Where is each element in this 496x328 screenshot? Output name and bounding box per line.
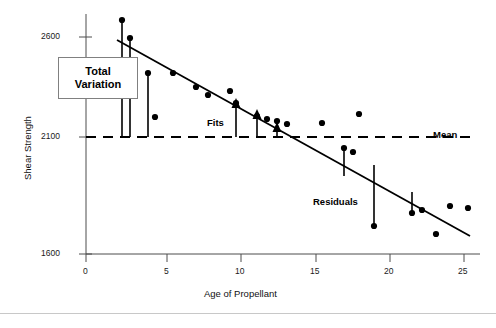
data-point	[145, 70, 151, 76]
data-point	[465, 205, 471, 211]
residual-segments	[344, 148, 412, 226]
data-point	[264, 116, 270, 122]
data-point	[205, 92, 211, 98]
scatter-plot-canvas	[0, 0, 496, 328]
data-point	[227, 88, 233, 94]
data-point	[419, 207, 425, 213]
residuals-label: Residuals	[313, 196, 358, 207]
bottom-divider	[0, 313, 496, 314]
xtick-label-15: 15	[310, 266, 319, 276]
data-point	[356, 111, 362, 117]
xtick-label-20: 20	[384, 266, 393, 276]
data-point	[274, 118, 280, 124]
data-point	[193, 84, 199, 90]
y-axis-title: Shear Strength	[22, 116, 33, 180]
total-variation-label-line2: Variation	[75, 78, 121, 91]
data-point	[433, 231, 439, 237]
x-axis-title: Age of Propellant	[204, 288, 277, 299]
ytick-label-2100: 2100	[41, 131, 60, 141]
data-point	[127, 35, 133, 41]
fit-arrow	[273, 122, 282, 137]
xtick-label-10: 10	[235, 266, 244, 276]
fits-label: Fits	[207, 117, 224, 128]
data-point	[447, 203, 453, 209]
total-variation-label-line1: Total	[85, 65, 110, 78]
data-point	[341, 145, 347, 151]
data-point	[409, 210, 415, 216]
data-point	[152, 114, 158, 120]
data-point	[233, 100, 239, 106]
total-variation-annotation: Total Variation	[58, 57, 138, 99]
ytick-label-1600: 1600	[41, 248, 60, 258]
xtick-label-25: 25	[458, 266, 467, 276]
data-point	[170, 70, 176, 76]
mean-label: Mean	[433, 129, 457, 140]
xtick-label-5: 5	[164, 266, 169, 276]
data-point	[119, 17, 125, 23]
data-point	[350, 149, 356, 155]
chart-figure: 2600 2100 1600 0 5 10 15 20 25 Shear Str…	[0, 0, 496, 328]
data-point	[371, 223, 377, 229]
data-point	[254, 113, 260, 119]
xtick-label-0: 0	[83, 266, 88, 276]
data-point	[284, 121, 290, 127]
data-points	[119, 17, 471, 237]
ytick-label-2600: 2600	[41, 31, 60, 41]
data-point	[319, 120, 325, 126]
